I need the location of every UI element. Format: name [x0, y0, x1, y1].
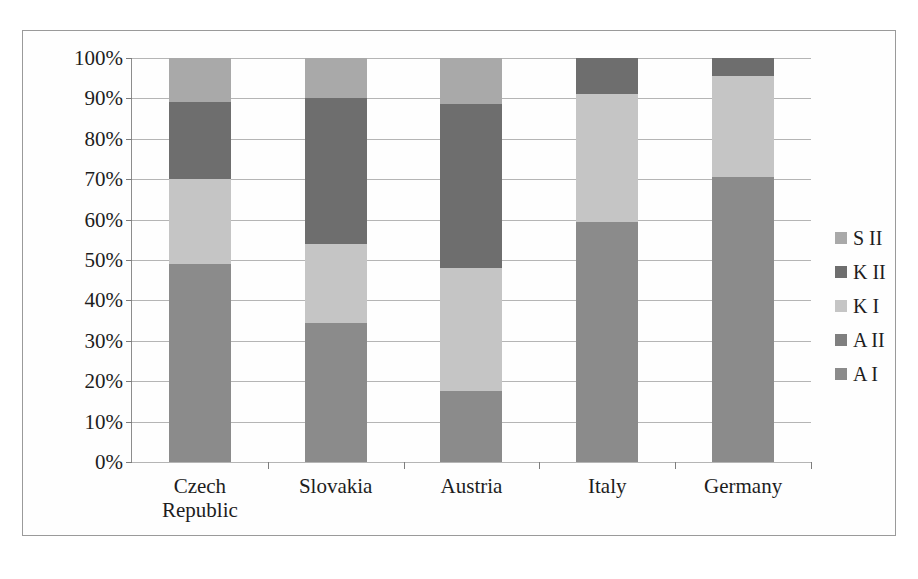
- x-axis-label: Slovakia: [299, 474, 373, 498]
- y-axis-tick: [126, 462, 132, 463]
- bar-segment[interactable]: [169, 58, 231, 102]
- bar-segment[interactable]: [712, 76, 774, 177]
- legend-swatch-icon: [835, 300, 847, 312]
- y-axis-label: 90%: [85, 88, 124, 109]
- bar-segment[interactable]: [712, 58, 774, 76]
- plot-area: 100%90%80%70%60%50%40%30%20%10%0% CzechR…: [131, 58, 811, 463]
- bar-segment[interactable]: [440, 58, 502, 104]
- bar-segment[interactable]: [576, 222, 638, 462]
- legend-swatch-icon: [835, 266, 847, 278]
- y-axis-label: 20%: [85, 371, 124, 392]
- bar-segment[interactable]: [169, 102, 231, 179]
- x-axis-label: Italy: [588, 474, 626, 498]
- legend-item[interactable]: K I: [835, 289, 918, 323]
- legend-label: S II: [853, 228, 882, 248]
- y-axis-label: 30%: [85, 330, 124, 351]
- stacked-bar[interactable]: [305, 58, 367, 462]
- legend-swatch-icon: [835, 368, 847, 380]
- bar-segment[interactable]: [169, 264, 231, 462]
- y-axis-label: 80%: [85, 128, 124, 149]
- bar-segment[interactable]: [576, 94, 638, 221]
- legend-item[interactable]: A II: [835, 323, 918, 357]
- bar-segment[interactable]: [440, 268, 502, 391]
- y-axis-label: 70%: [85, 169, 124, 190]
- stacked-bar[interactable]: [169, 58, 231, 462]
- bar-category-slot: CzechRepublic: [132, 58, 268, 462]
- bar-segment[interactable]: [169, 179, 231, 264]
- bar-category-slot: Slovakia: [268, 58, 404, 462]
- x-axis-tick: [404, 462, 405, 469]
- bar-segment[interactable]: [712, 177, 774, 462]
- y-axis-label: 0%: [95, 452, 123, 473]
- legend-label: K II: [853, 262, 886, 282]
- legend-label: A II: [853, 330, 885, 350]
- bar-category-slot: Austria: [404, 58, 540, 462]
- x-axis-tick: [268, 462, 269, 469]
- bar-segment[interactable]: [305, 98, 367, 243]
- x-axis-label: Austria: [441, 474, 503, 498]
- chart-legend: S IIK IIK IA IIA I: [835, 221, 918, 391]
- gridline: [132, 462, 811, 463]
- y-axis-label: 50%: [85, 250, 124, 271]
- y-axis-label: 100%: [74, 48, 123, 69]
- y-axis-label: 60%: [85, 209, 124, 230]
- x-axis-label: CzechRepublic: [162, 474, 238, 522]
- y-axis-label: 40%: [85, 290, 124, 311]
- bar-segment[interactable]: [305, 58, 367, 98]
- legend-item[interactable]: K II: [835, 255, 918, 289]
- bar-segment[interactable]: [305, 244, 367, 323]
- legend-item[interactable]: A I: [835, 357, 918, 391]
- bar-segment[interactable]: [305, 323, 367, 462]
- legend-swatch-icon: [835, 232, 847, 244]
- x-axis-label: Germany: [704, 474, 782, 498]
- bar-segment[interactable]: [440, 104, 502, 268]
- bar-segment[interactable]: [440, 391, 502, 462]
- stacked-bar[interactable]: [576, 58, 638, 462]
- stacked-bar[interactable]: [440, 58, 502, 462]
- chart-frame: 100%90%80%70%60%50%40%30%20%10%0% CzechR…: [22, 30, 896, 536]
- bar-segment[interactable]: [576, 58, 638, 94]
- x-axis-tick: [539, 462, 540, 469]
- stacked-bar[interactable]: [712, 58, 774, 462]
- bar-category-slot: Italy: [539, 58, 675, 462]
- legend-swatch-icon: [835, 334, 847, 346]
- y-axis-label: 10%: [85, 411, 124, 432]
- x-axis-tick: [811, 462, 812, 469]
- bar-category-slot: Germany: [675, 58, 811, 462]
- legend-label: A I: [853, 364, 878, 384]
- legend-item[interactable]: S II: [835, 221, 918, 255]
- x-axis-tick: [675, 462, 676, 469]
- legend-label: K I: [853, 296, 879, 316]
